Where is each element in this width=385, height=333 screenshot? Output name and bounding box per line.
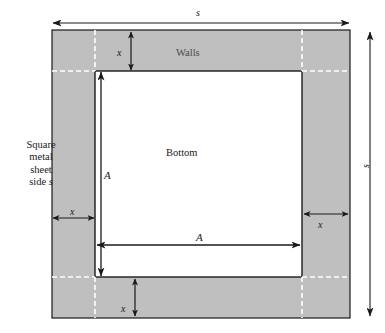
label-x-right: x [318, 219, 322, 231]
label-x-bottom: x [121, 303, 125, 315]
label-sheet-side-word: side [29, 176, 46, 187]
label-sheet-line-4: side s [6, 176, 76, 188]
label-sheet-line-1: Square [6, 139, 76, 151]
label-s-top: s [196, 7, 200, 19]
label-sheet-line-2: metal [6, 151, 76, 163]
label-square-metal-sheet: Square metal sheet side s [6, 139, 76, 189]
label-A-vertical: A [104, 169, 111, 182]
label-x-left: x [70, 206, 74, 218]
label-sheet-line-3: sheet [6, 164, 76, 176]
diagram-canvas: Square metal sheet side s Walls Bottom s… [0, 0, 385, 333]
label-s-right: s [360, 164, 372, 168]
label-A-horizontal: A [196, 231, 203, 244]
label-x-top: x [117, 47, 121, 59]
label-bottom: Bottom [166, 147, 198, 159]
label-sheet-side-variable: s [49, 176, 53, 187]
bottom-square [95, 71, 302, 277]
label-walls: Walls [176, 47, 200, 59]
